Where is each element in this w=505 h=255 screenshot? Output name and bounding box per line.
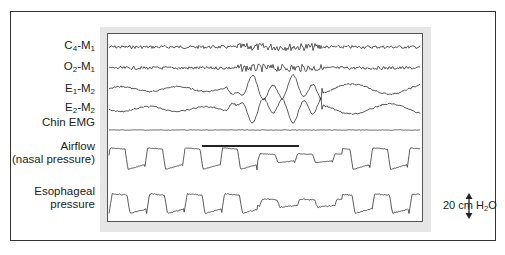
trace bbox=[109, 74, 420, 100]
trace bbox=[109, 148, 420, 170]
channel-label-e2m2: E2-M2 bbox=[65, 101, 95, 114]
trace bbox=[109, 64, 420, 72]
trace bbox=[109, 98, 420, 124]
trace bbox=[109, 130, 420, 131]
channel-label-o2m1: O2-M1 bbox=[64, 60, 95, 73]
channel-label-chin: Chin EMG bbox=[42, 116, 95, 129]
trace bbox=[109, 193, 420, 213]
signal-traces bbox=[107, 33, 423, 222]
channel-label-airflow: Airflow(nasal pressure) bbox=[12, 140, 95, 166]
channel-label-c4m1: C4-M1 bbox=[64, 39, 95, 52]
channel-label-esoph: Esophagealpressure bbox=[34, 185, 95, 211]
trace bbox=[109, 43, 420, 51]
channel-label-e1m2: E1-M2 bbox=[65, 82, 95, 95]
scale-label: 20 cm H2O bbox=[443, 199, 497, 211]
